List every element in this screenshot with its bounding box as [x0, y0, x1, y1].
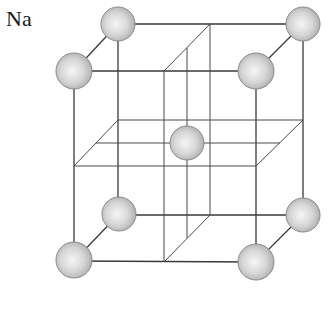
- atom-front-top-right: [238, 53, 274, 89]
- bcc-unit-cell-diagram: [0, 0, 336, 310]
- atom-front-top-left: [56, 53, 92, 89]
- atom-back-bottom-right: [286, 198, 320, 232]
- atom-back-bottom-left: [102, 197, 136, 231]
- atom-body-center: [170, 126, 204, 160]
- atom-front-bottom-right: [238, 244, 274, 280]
- atom-front-bottom-left: [56, 242, 92, 278]
- atom-back-top-right: [286, 7, 320, 41]
- atom-back-top-left: [101, 7, 135, 41]
